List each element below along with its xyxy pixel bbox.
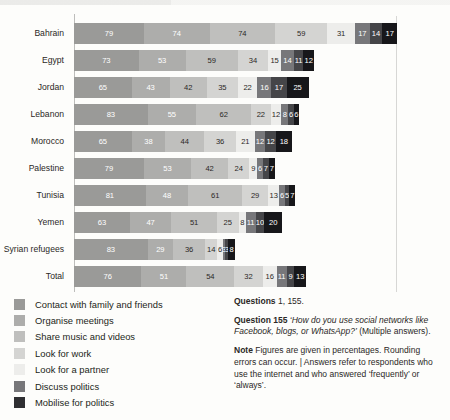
bar-segment[interactable]: 21 bbox=[236, 131, 255, 152]
bar-segment[interactable]: 9 bbox=[249, 158, 257, 179]
bar-segment[interactable]: 51 bbox=[171, 212, 216, 233]
bar-segment[interactable]: 10 bbox=[256, 212, 265, 233]
stacked-bar[interactable]: 8148612913657 bbox=[74, 185, 295, 206]
bar-segment[interactable]: 83 bbox=[74, 239, 148, 260]
bar-segment[interactable]: 15 bbox=[268, 50, 281, 71]
bar-segment[interactable]: 17 bbox=[382, 23, 397, 44]
legend-item[interactable]: Share music and videos bbox=[14, 329, 226, 345]
bar-segment[interactable]: 31 bbox=[327, 23, 354, 44]
bar-segment[interactable]: 11 bbox=[277, 266, 287, 287]
stacked-bar[interactable]: 795342249677 bbox=[74, 158, 275, 179]
bar-segment[interactable]: 65 bbox=[74, 131, 132, 152]
bar-segment[interactable]: 54 bbox=[186, 266, 234, 287]
bar-segment[interactable]: 14 bbox=[370, 23, 382, 44]
bar-segment[interactable]: 8 bbox=[281, 104, 288, 125]
bar-segment[interactable]: 24 bbox=[228, 158, 249, 179]
bar-segment[interactable]: 65 bbox=[74, 77, 132, 98]
bar-segment[interactable]: 20 bbox=[264, 212, 282, 233]
bar-track: 6543423522161725 bbox=[74, 74, 450, 101]
bar-segment[interactable]: 42 bbox=[191, 158, 228, 179]
question-line: Question 155 ‘How do you use social netw… bbox=[234, 315, 440, 338]
bar-segment[interactable]: 7 bbox=[289, 185, 295, 206]
bar-segment[interactable]: 8 bbox=[239, 212, 246, 233]
bar-segment[interactable]: 48 bbox=[146, 185, 189, 206]
chart-row: Tunisia8148612913657 bbox=[0, 182, 450, 209]
bar-segment[interactable]: 59 bbox=[275, 23, 327, 44]
bar-segment[interactable]: 61 bbox=[188, 185, 242, 206]
bar-segment[interactable]: 63 bbox=[74, 212, 130, 233]
legend-label: Look for work bbox=[35, 348, 91, 359]
bar-segment[interactable]: 16 bbox=[257, 77, 271, 98]
stacked-bar[interactable]: 6543423522161725 bbox=[74, 77, 309, 98]
bar-segment[interactable]: 36 bbox=[204, 131, 236, 152]
bar-segment[interactable]: 73 bbox=[74, 50, 139, 71]
bar-segment[interactable]: 7 bbox=[269, 158, 275, 179]
bar-segment[interactable]: 18 bbox=[276, 131, 292, 152]
bar-segment[interactable]: 11 bbox=[294, 50, 304, 71]
bar-segment[interactable]: 14 bbox=[281, 50, 293, 71]
category-label: Total bbox=[0, 272, 70, 282]
legend-item[interactable]: Discuss politics bbox=[14, 378, 226, 394]
bar-segment[interactable]: 36 bbox=[173, 239, 205, 260]
bar-segment[interactable]: 42 bbox=[170, 77, 207, 98]
bar-segment[interactable]: 29 bbox=[148, 239, 174, 260]
stacked-bar[interactable]: 832936146338 bbox=[74, 239, 235, 260]
bar-segment[interactable]: 32 bbox=[234, 266, 262, 287]
legend-item[interactable]: Contact with family and friends bbox=[14, 296, 226, 312]
legend-item[interactable]: Look for a partner bbox=[14, 362, 226, 378]
bar-segment[interactable]: 38 bbox=[132, 131, 166, 152]
bar-segment[interactable]: 12 bbox=[265, 131, 276, 152]
chart-row: Egypt7353593415141112 bbox=[0, 47, 450, 74]
bar-segment[interactable]: 44 bbox=[165, 131, 204, 152]
bar-segment[interactable]: 17 bbox=[271, 77, 286, 98]
bar-segment[interactable]: 35 bbox=[207, 77, 238, 98]
bar-segment[interactable]: 53 bbox=[139, 50, 186, 71]
bar-segment[interactable]: 74 bbox=[144, 23, 210, 44]
bar-segment[interactable]: 29 bbox=[242, 185, 268, 206]
bar-segment[interactable]: 9 bbox=[287, 266, 295, 287]
legend-item[interactable]: Mobilise for politics bbox=[14, 394, 226, 410]
questions-value: 1, 155. bbox=[278, 296, 304, 306]
bar-segment[interactable]: 79 bbox=[74, 23, 144, 44]
category-label: Jordan bbox=[0, 83, 70, 93]
bar-segment[interactable]: 76 bbox=[74, 266, 141, 287]
bar-segment[interactable]: 53 bbox=[144, 158, 191, 179]
bar-segment[interactable]: 12 bbox=[271, 104, 282, 125]
bar-segment[interactable]: 25 bbox=[217, 212, 239, 233]
bar-segment[interactable]: 47 bbox=[130, 212, 172, 233]
bar-segment[interactable]: 6 bbox=[294, 104, 299, 125]
stacked-bar[interactable]: 634751258111020 bbox=[74, 212, 282, 233]
category-label: Yemen bbox=[0, 218, 70, 228]
chart-row: Total765154321611913 bbox=[0, 263, 450, 290]
legend-swatch-icon bbox=[14, 397, 25, 408]
bar-segment[interactable]: 13 bbox=[294, 266, 306, 287]
stacked-bar[interactable]: 8355622212866 bbox=[74, 104, 299, 125]
bar-segment[interactable]: 43 bbox=[132, 77, 170, 98]
legend-item[interactable]: Look for work bbox=[14, 345, 226, 361]
bar-segment[interactable]: 59 bbox=[186, 50, 238, 71]
stacked-bar[interactable]: 6538443621121218 bbox=[74, 131, 292, 152]
bar-segment[interactable]: 34 bbox=[238, 50, 268, 71]
bar-segment[interactable]: 62 bbox=[196, 104, 251, 125]
stacked-bar[interactable]: 7353593415141112 bbox=[74, 50, 314, 71]
bar-segment[interactable]: 83 bbox=[74, 104, 148, 125]
bar-segment[interactable]: 51 bbox=[141, 266, 186, 287]
bar-segment[interactable]: 11 bbox=[246, 212, 256, 233]
stacked-bar[interactable]: 765154321611913 bbox=[74, 266, 306, 287]
bar-segment[interactable]: 55 bbox=[148, 104, 197, 125]
bar-segment[interactable]: 13 bbox=[268, 185, 280, 206]
bar-segment[interactable]: 25 bbox=[287, 77, 309, 98]
bar-segment[interactable]: 17 bbox=[355, 23, 370, 44]
bar-segment[interactable]: 8 bbox=[228, 239, 235, 260]
bar-segment[interactable]: 81 bbox=[74, 185, 146, 206]
bar-segment[interactable]: 12 bbox=[255, 131, 266, 152]
bar-segment[interactable]: 79 bbox=[74, 158, 144, 179]
bar-segment[interactable]: 14 bbox=[205, 239, 217, 260]
legend-item[interactable]: Organise meetings bbox=[14, 312, 226, 328]
stacked-bar[interactable]: 7974745931171417 bbox=[74, 23, 397, 44]
bar-segment[interactable]: 12 bbox=[303, 50, 314, 71]
bar-segment[interactable]: 16 bbox=[263, 266, 277, 287]
bar-segment[interactable]: 74 bbox=[210, 23, 276, 44]
bar-segment[interactable]: 22 bbox=[238, 77, 257, 98]
bar-segment[interactable]: 22 bbox=[251, 104, 270, 125]
